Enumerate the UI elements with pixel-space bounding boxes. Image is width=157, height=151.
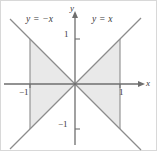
- x-axis-arrowhead: [138, 81, 145, 87]
- y-axis: [72, 11, 80, 145]
- x-axis-label: x: [146, 79, 150, 88]
- figure-border: [1, 1, 157, 151]
- x-axis-tick-label-1: 1: [119, 88, 124, 97]
- line-label-y-equals-negative-x: y = −x: [26, 15, 53, 25]
- line-label-y-equals-x: y = x: [92, 15, 113, 25]
- graph-figure: y = −x y = x y x 1 −1 1 −1: [0, 0, 157, 151]
- coordinate-plane-plot: [0, 0, 157, 151]
- y-axis-tick-label-neg1: −1: [58, 120, 68, 129]
- y-axis-tick-label-1: 1: [64, 30, 69, 39]
- y-axis-label: y: [70, 4, 74, 13]
- x-axis-tick-label-neg1: −1: [19, 88, 29, 97]
